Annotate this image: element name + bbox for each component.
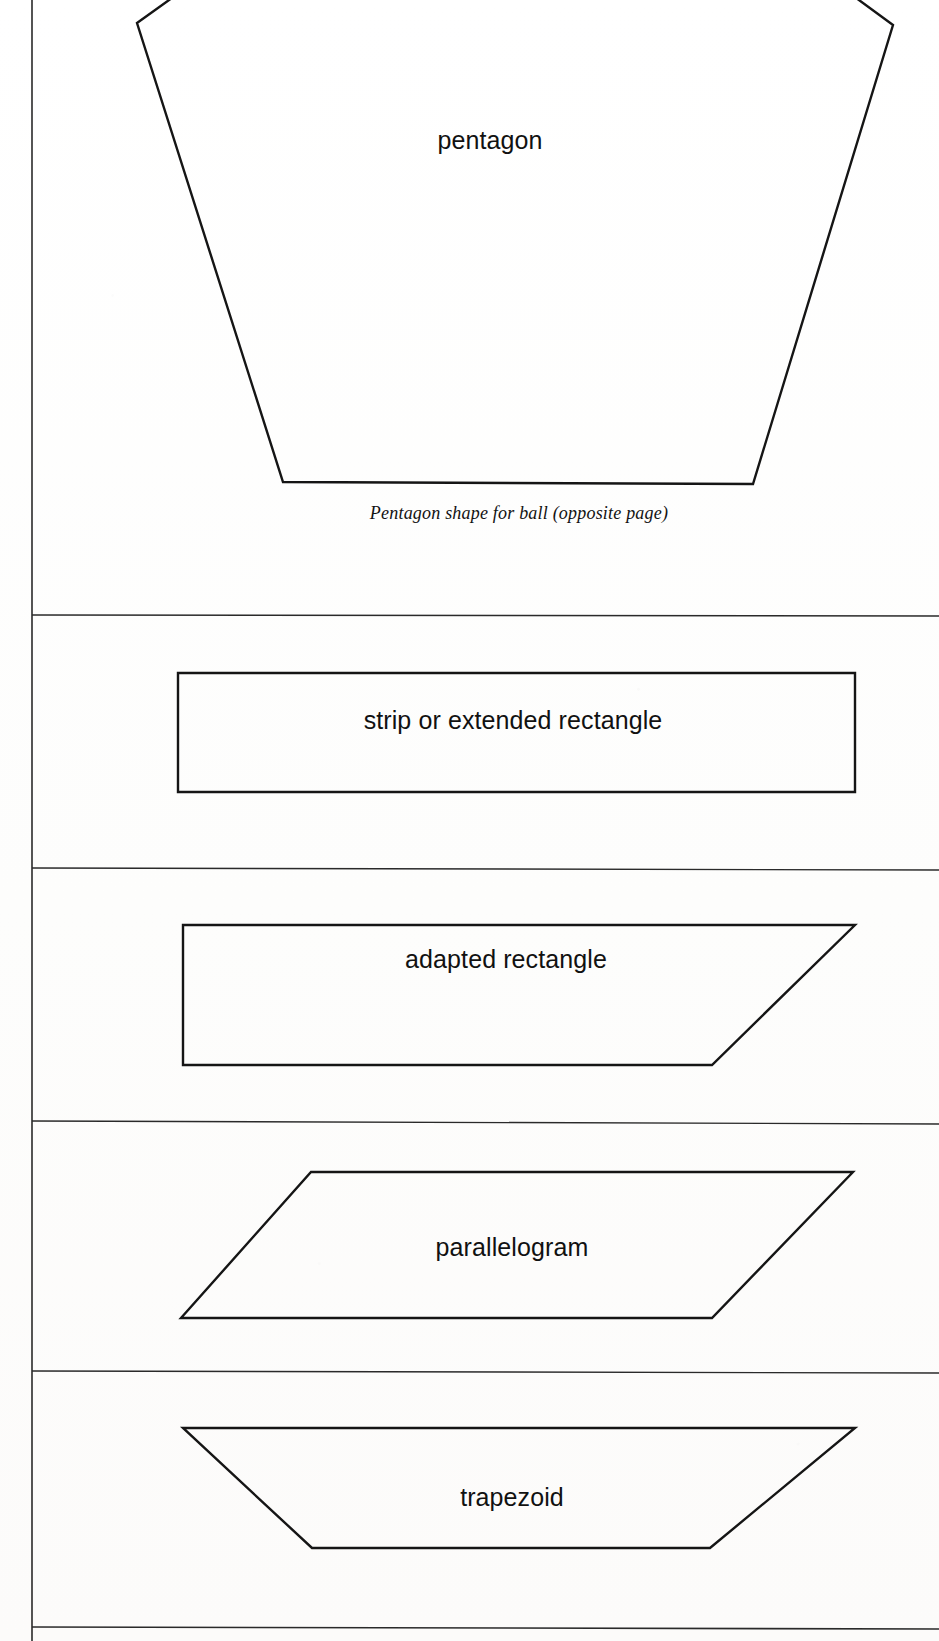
divider-rule-2 (32, 868, 939, 870)
divider-rule-4 (32, 1371, 939, 1373)
parallelogram-label: parallelogram (436, 1233, 589, 1262)
pentagon-caption: Pentagon shape for ball (opposite page) (370, 503, 668, 524)
trapezoid-label: trapezoid (460, 1483, 564, 1512)
adapted-rectangle-label: adapted rectangle (405, 945, 607, 974)
shape-artboard (0, 0, 939, 1641)
pentagon-shape (137, 0, 893, 484)
strip-rectangle-label: strip or extended rectangle (364, 706, 663, 735)
divider-rule-3 (32, 1121, 939, 1124)
bottom-margin-rule (32, 1627, 939, 1629)
divider-rule-1 (32, 615, 939, 616)
page-canvas: pentagon Pentagon shape for ball (opposi… (0, 0, 939, 1641)
pentagon-label: pentagon (437, 126, 542, 155)
